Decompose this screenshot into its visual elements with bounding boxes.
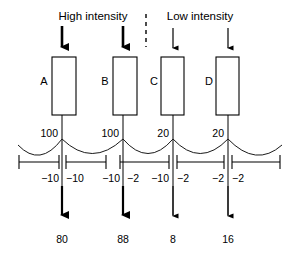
loss-bar-c-right: [177, 155, 224, 169]
loss-b-right: −2: [127, 172, 139, 184]
intensity-diagram: High intensity Low intensity A B C D 100: [0, 0, 294, 255]
loss-curve-bc: [123, 139, 173, 154]
unit-box-label-a: A: [40, 75, 48, 87]
loss-b-left: −10: [102, 172, 120, 184]
loss-curve-d-right: [228, 139, 282, 155]
output-arrows: [62, 186, 228, 216]
output-value-a: 80: [56, 233, 68, 245]
unit-box-d: [216, 57, 239, 115]
unit-box-label-b: B: [101, 75, 108, 87]
box-value-d: 20: [212, 127, 224, 139]
input-arrows: [62, 26, 228, 48]
box-value-c: 20: [157, 127, 169, 139]
loss-curve-cd: [173, 139, 228, 154]
unit-box-b: [113, 57, 137, 115]
loss-bar-a-left: [19, 155, 59, 169]
loss-curves: [18, 139, 282, 155]
header-high-intensity: High intensity: [58, 10, 127, 22]
output-value-d: 16: [222, 233, 234, 245]
unit-box-label-d: D: [205, 75, 213, 87]
loss-curve-ab: [62, 139, 123, 154]
loss-labels: −10 −10 −10 −2 −10 −2 −2 −2: [41, 172, 244, 184]
loss-d-right: −2: [232, 172, 244, 184]
loss-d-left: −2: [212, 172, 224, 184]
unit-box-label-c: C: [150, 75, 158, 87]
unit-boxes: A B C D: [40, 57, 239, 115]
header-low-intensity: Low intensity: [167, 10, 234, 22]
output-value-b: 88: [117, 233, 129, 245]
loss-c-right: −2: [177, 172, 189, 184]
unit-box-a: [52, 57, 76, 115]
box-values: 100 100 20 20: [40, 127, 224, 139]
box-value-a: 100: [40, 127, 58, 139]
loss-a-right: −10: [66, 172, 84, 184]
loss-bar-b-left: [120, 155, 169, 169]
output-value-c: 8: [170, 233, 176, 245]
loss-a-left: −10: [41, 172, 59, 184]
loss-bar-d-right: [232, 155, 280, 169]
unit-box-c: [161, 57, 184, 115]
loss-c-left: −10: [151, 172, 169, 184]
loss-bar-a-right: [66, 155, 106, 169]
loss-curve-a-left: [18, 139, 62, 155]
box-value-b: 100: [101, 127, 119, 139]
output-values: 80 88 8 16: [56, 233, 234, 245]
figure-root: High intensity Low intensity A B C D 100: [0, 0, 294, 255]
column-lines: [62, 115, 228, 215]
loss-bars: [19, 155, 280, 169]
